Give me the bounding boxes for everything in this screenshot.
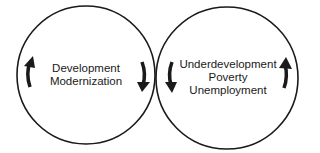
arrow-up-icon xyxy=(24,56,35,87)
label-line: Modernization xyxy=(40,75,132,88)
label-line: Development xyxy=(40,62,132,75)
label-line: Underdevelopment xyxy=(172,58,284,71)
label-line: Unemployment xyxy=(172,84,284,97)
left-circle-label: Development Modernization xyxy=(40,62,132,88)
arrow-down-icon xyxy=(137,62,150,92)
right-circle-label: Underdevelopment Poverty Unemployment xyxy=(172,58,284,97)
label-line: Poverty xyxy=(172,71,284,84)
